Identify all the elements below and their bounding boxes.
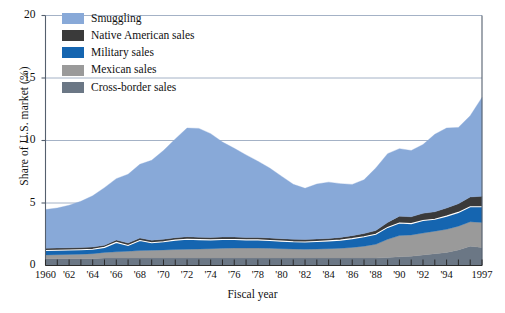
x-tick-label-1982: '82 xyxy=(294,269,316,280)
chart-figure: Share of U.S. market (%) Fiscal year 201… xyxy=(0,0,505,313)
legend-item: Cross-border sales xyxy=(62,79,194,96)
x-tick-label-1970: '70 xyxy=(152,269,174,280)
chart-legend: SmugglingNative American salesMilitary s… xyxy=(62,10,194,96)
legend-swatch-icon xyxy=(62,13,84,24)
x-tick-label-1976: '76 xyxy=(223,269,245,280)
x-tick-label-1972: '72 xyxy=(176,269,198,280)
x-tick-label-1962: '62 xyxy=(58,269,80,280)
legend-item-label: Smuggling xyxy=(91,13,141,25)
x-tick-label-1992: '92 xyxy=(412,269,434,280)
x-tick-label-1994: '94 xyxy=(436,269,458,280)
y-tick-label-15: 15 xyxy=(6,71,36,83)
legend-item-label: Cross-border sales xyxy=(91,82,176,94)
x-tick-label-1966: '66 xyxy=(105,269,127,280)
x-tick-label-1984: '84 xyxy=(318,269,340,280)
y-tick-label-10: 10 xyxy=(6,133,36,145)
x-tick-label-1986: '86 xyxy=(341,269,363,280)
legend-item-label: Mexican sales xyxy=(91,64,156,76)
legend-swatch-icon xyxy=(62,65,84,76)
legend-item: Military sales xyxy=(62,44,194,61)
x-tick-label-1978: '78 xyxy=(247,269,269,280)
x-tick-label-1974: '74 xyxy=(200,269,222,280)
legend-swatch-icon xyxy=(62,47,84,58)
y-tick-label-20: 20 xyxy=(6,8,36,20)
y-tick-label-5: 5 xyxy=(6,196,36,208)
legend-item: Native American sales xyxy=(62,27,194,44)
x-tick-label-1968: '68 xyxy=(129,269,151,280)
x-tick-label-1964: '64 xyxy=(82,269,104,280)
x-tick-label-1990: '90 xyxy=(388,269,410,280)
legend-swatch-icon xyxy=(62,82,84,93)
legend-item-label: Native American sales xyxy=(91,30,194,42)
legend-swatch-icon xyxy=(62,30,84,41)
legend-item-label: Military sales xyxy=(91,47,154,59)
x-tick-label-1980: '80 xyxy=(270,269,292,280)
x-axis-title: Fiscal year xyxy=(0,288,505,300)
legend-item: Mexican sales xyxy=(62,62,194,79)
legend-item: Smuggling xyxy=(62,10,194,27)
x-tick-label-1988: '88 xyxy=(365,269,387,280)
x-tick-label-1997: 1997 xyxy=(465,269,499,280)
